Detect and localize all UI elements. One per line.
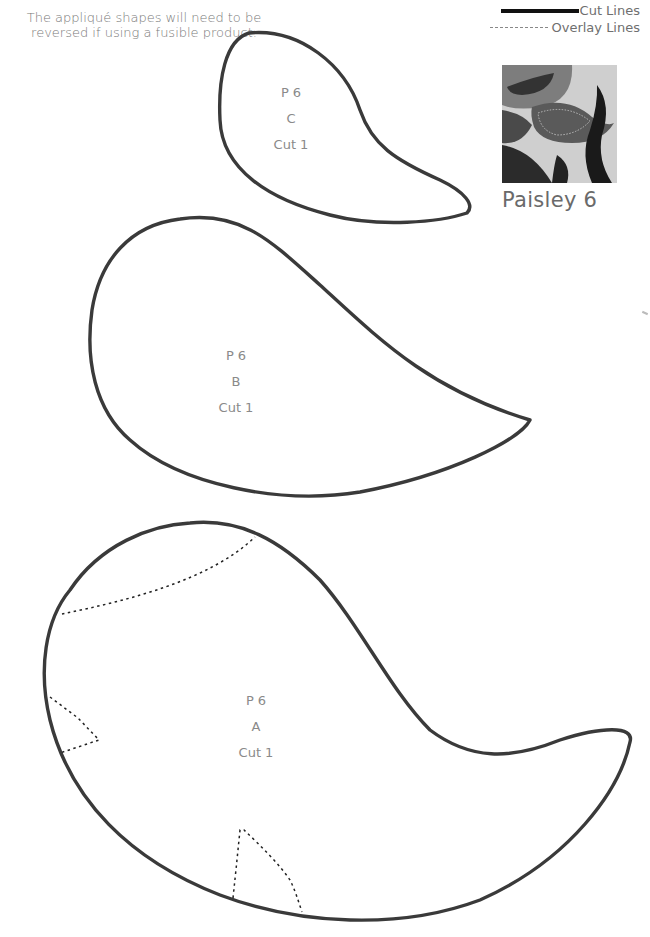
piece-a-label: P 6 A Cut 1	[216, 688, 296, 766]
piece-c-pattern: P 6	[251, 80, 331, 106]
piece-b-label: P 6 B Cut 1	[196, 343, 276, 421]
piece-a-cut-count: Cut 1	[216, 740, 296, 766]
piece-a-overlay-bottom	[233, 830, 302, 912]
piece-a-pattern: P 6	[216, 688, 296, 714]
piece-c-letter: C	[251, 106, 331, 132]
piece-b-letter: B	[196, 369, 276, 395]
piece-a-cut-line	[44, 522, 630, 920]
piece-c-label: P 6 C Cut 1	[251, 80, 331, 158]
piece-b-cut-line	[90, 217, 530, 496]
piece-c-cut-count: Cut 1	[251, 132, 331, 158]
piece-a-overlay-top	[62, 537, 255, 614]
piece-b-cut-count: Cut 1	[196, 395, 276, 421]
piece-a-letter: A	[216, 714, 296, 740]
piece-b-pattern: P 6	[196, 343, 276, 369]
